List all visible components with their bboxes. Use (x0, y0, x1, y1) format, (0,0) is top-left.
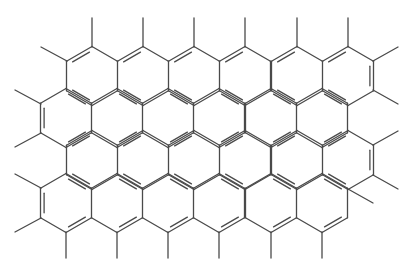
bond (143, 174, 169, 189)
bond (143, 218, 169, 233)
bond (297, 91, 323, 106)
bond (246, 89, 272, 104)
bond (297, 218, 323, 233)
bond (143, 133, 169, 148)
bond (271, 218, 297, 233)
double-bond (325, 217, 342, 227)
double-bond (73, 52, 90, 62)
bond (143, 89, 169, 104)
bond (194, 47, 220, 62)
bond (67, 47, 93, 62)
bond (41, 133, 67, 148)
bond (67, 175, 93, 190)
bond (323, 91, 349, 106)
bond (41, 174, 67, 189)
bond (92, 133, 118, 148)
bond (92, 89, 118, 104)
bond (117, 174, 143, 189)
bond (143, 47, 169, 62)
bond (272, 131, 298, 146)
bond (272, 47, 298, 62)
bond (169, 47, 195, 62)
double-bond (175, 52, 192, 62)
bond (143, 131, 169, 146)
bond (169, 131, 195, 146)
double-bond (226, 52, 243, 62)
bond (92, 175, 118, 190)
bond (194, 175, 220, 190)
bond (194, 133, 220, 148)
bond (41, 89, 67, 104)
bond (348, 175, 374, 190)
bond (322, 174, 348, 189)
double-bond (69, 217, 86, 227)
bond (297, 89, 323, 104)
methyl-group (15, 133, 41, 147)
bond (118, 91, 144, 106)
methyl-group (15, 174, 41, 188)
methyl-group (373, 131, 398, 145)
bond (168, 133, 194, 148)
nanographene-structure (0, 0, 405, 260)
bond (220, 47, 246, 62)
bond (246, 218, 272, 233)
bond (194, 131, 220, 146)
bond (271, 174, 297, 189)
methyl-group (41, 47, 67, 61)
methyl-group (373, 90, 398, 104)
bond (219, 218, 245, 233)
bond (92, 174, 118, 189)
bond (322, 89, 348, 104)
bond (169, 175, 195, 190)
double-bond (124, 52, 141, 62)
bond (168, 218, 194, 233)
bond (194, 174, 220, 189)
bond (271, 89, 297, 104)
bond (271, 133, 297, 148)
bond (297, 47, 323, 62)
bond (92, 47, 118, 62)
bond (67, 91, 93, 106)
bond (220, 131, 246, 146)
bond (272, 175, 298, 190)
bond (297, 174, 323, 189)
bond (220, 175, 246, 190)
methyl-group (373, 47, 398, 61)
bond (246, 133, 272, 148)
bond (143, 175, 169, 190)
bond (194, 89, 220, 104)
methyl-group (373, 175, 398, 189)
bond (168, 89, 194, 104)
bond (194, 91, 220, 106)
bond (348, 91, 374, 106)
bond (348, 47, 374, 62)
double-bond (278, 52, 295, 62)
bond (323, 175, 349, 190)
bond (92, 131, 118, 146)
bond (245, 175, 271, 190)
bond (66, 174, 92, 189)
bond (66, 133, 92, 148)
bond (169, 91, 195, 106)
bond (118, 131, 144, 146)
bond (66, 218, 92, 233)
double-bond (222, 217, 239, 227)
molecule-diagram (0, 0, 405, 260)
bond (67, 131, 93, 146)
bond (245, 131, 271, 146)
bond (297, 131, 323, 146)
bond (219, 174, 245, 189)
bond (245, 91, 271, 106)
bond (323, 47, 349, 62)
bond (117, 218, 143, 233)
bond (66, 89, 92, 104)
bond (246, 174, 272, 189)
bond (118, 47, 144, 62)
bond (118, 175, 144, 190)
bond (323, 131, 349, 146)
bond (219, 89, 245, 104)
bond (348, 131, 374, 146)
bond (143, 91, 169, 106)
double-bond (329, 52, 346, 62)
bond (92, 91, 118, 106)
